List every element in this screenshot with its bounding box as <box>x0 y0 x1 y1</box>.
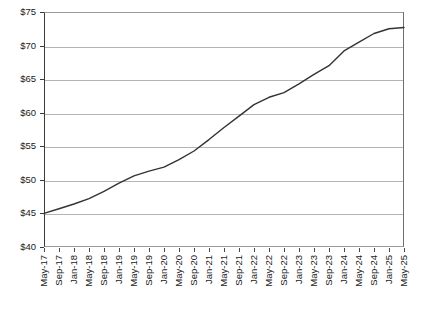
series-polyline <box>44 27 404 213</box>
y-tick-label: $55 <box>20 142 36 152</box>
x-tick-mark <box>314 248 315 252</box>
x-tick-mark <box>44 248 45 252</box>
x-tick-mark <box>344 248 345 252</box>
x-tick-mark <box>374 248 375 252</box>
x-tick-mark <box>224 248 225 252</box>
x-tick-mark <box>59 248 60 252</box>
y-axis: $40$45$50$55$60$65$70$75 <box>0 0 40 311</box>
x-tick-mark <box>239 248 240 252</box>
x-tick-label: Jan-23 <box>294 255 304 284</box>
y-tick-label: $65 <box>20 74 36 84</box>
x-tick-mark <box>299 248 300 252</box>
x-tick-label: Sep-22 <box>279 255 289 286</box>
x-tick-label: May-21 <box>219 255 229 287</box>
x-tick-label: Jan-25 <box>384 255 394 284</box>
line-chart: $40$45$50$55$60$65$70$75 May-17Sep-17Jan… <box>0 0 425 311</box>
x-tick-mark <box>119 248 120 252</box>
x-tick-label: May-22 <box>264 255 274 287</box>
x-tick-mark <box>269 248 270 252</box>
y-tick-label: $40 <box>20 242 36 252</box>
x-tick-mark <box>254 248 255 252</box>
x-tick-mark <box>209 248 210 252</box>
x-axis: May-17Sep-17Jan-18May-18Sep-18Jan-19May-… <box>44 248 404 311</box>
x-tick-label: Sep-17 <box>54 255 64 286</box>
data-series-line <box>44 12 404 247</box>
x-tick-mark <box>179 248 180 252</box>
x-tick-mark <box>194 248 195 252</box>
x-tick-label: Sep-18 <box>99 255 109 286</box>
x-tick-label: Jan-19 <box>114 255 124 284</box>
y-tick-label: $75 <box>20 7 36 17</box>
x-tick-label: May-23 <box>309 255 319 287</box>
x-tick-label: Jan-21 <box>204 255 214 284</box>
x-tick-mark <box>74 248 75 252</box>
x-tick-mark <box>329 248 330 252</box>
y-tick-label: $60 <box>20 108 36 118</box>
x-tick-label: May-24 <box>354 255 364 287</box>
x-tick-label: Sep-23 <box>324 255 334 286</box>
x-tick-mark <box>104 248 105 252</box>
x-tick-mark <box>284 248 285 252</box>
x-tick-mark <box>89 248 90 252</box>
x-tick-label: Jan-18 <box>69 255 79 284</box>
x-tick-mark <box>404 248 405 252</box>
x-tick-mark <box>134 248 135 252</box>
x-tick-label: Sep-19 <box>144 255 154 286</box>
x-tick-label: Jan-24 <box>339 255 349 284</box>
x-tick-mark <box>359 248 360 252</box>
x-tick-label: Sep-20 <box>189 255 199 286</box>
x-tick-mark <box>389 248 390 252</box>
x-tick-label: May-20 <box>174 255 184 287</box>
x-tick-label: Jan-22 <box>249 255 259 284</box>
x-tick-label: May-17 <box>39 255 49 287</box>
x-tick-label: Jan-20 <box>159 255 169 284</box>
y-tick-label: $50 <box>20 175 36 185</box>
x-tick-mark <box>164 248 165 252</box>
x-tick-label: Sep-24 <box>369 255 379 286</box>
y-tick-label: $70 <box>20 41 36 51</box>
y-tick-label: $45 <box>20 209 36 219</box>
x-tick-label: May-25 <box>399 255 409 287</box>
x-tick-label: May-18 <box>84 255 94 287</box>
x-tick-mark <box>149 248 150 252</box>
x-tick-label: May-19 <box>129 255 139 287</box>
x-tick-label: Sep-21 <box>234 255 244 286</box>
